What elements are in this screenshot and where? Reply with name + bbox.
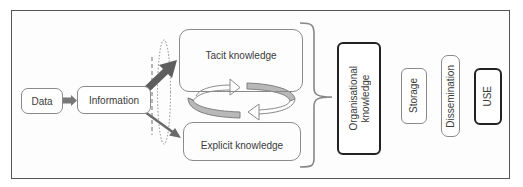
- information-to-explicit-arrow: [145, 112, 181, 138]
- explicit-knowledge-node: Explicit knowledge: [183, 122, 301, 161]
- tacit-knowledge-label: Tacit knowledge: [205, 50, 276, 61]
- information-node: Information: [77, 86, 151, 114]
- storage-label: Storage: [408, 78, 420, 113]
- tacit-knowledge-node: Tacit knowledge: [179, 29, 303, 92]
- use-label: USE: [482, 86, 494, 107]
- explicit-knowledge-label: Explicit knowledge: [201, 140, 283, 151]
- data-node: Data: [21, 88, 63, 114]
- use-node: USE: [474, 68, 502, 125]
- storage-node: Storage: [401, 68, 427, 124]
- information-label: Information: [89, 95, 139, 106]
- data-label: Data: [31, 96, 52, 107]
- dissemination-node: Dissemination: [441, 55, 460, 137]
- data-to-information-arrow: [62, 95, 77, 106]
- organisational-knowledge-label: Organisational knowledge: [348, 66, 371, 130]
- organisational-knowledge-node: Organisational knowledge: [337, 42, 381, 155]
- grouping-brace: [300, 23, 332, 167]
- dissemination-label: Dissemination: [445, 65, 457, 128]
